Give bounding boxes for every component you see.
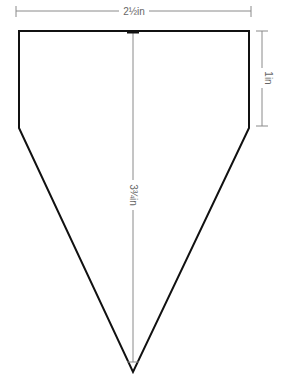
side-height-dimension-label: 1in <box>263 71 274 84</box>
width-dimension: 2½in <box>16 4 251 18</box>
total-height-dimension-label: 3¾in <box>128 184 139 206</box>
width-dimension-label: 2½in <box>123 6 145 17</box>
side-height-dimension: 1in <box>256 31 274 126</box>
diagram-canvas: 2½in 1in 3¾in <box>0 0 284 381</box>
